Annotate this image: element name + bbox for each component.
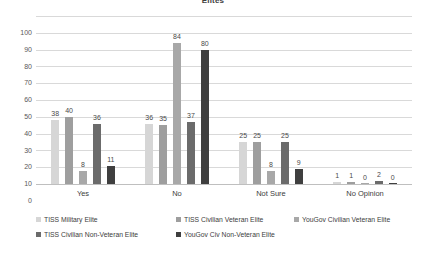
bar-slot: 84 — [173, 16, 182, 184]
bar-slot: 80 — [201, 16, 210, 184]
bar-value-label: 25 — [253, 132, 261, 139]
legend-label: YouGov Civilian Veteran Elite — [302, 216, 390, 224]
bar-group: 384083611 — [36, 16, 130, 184]
bar-chart: Elites 1009080706050403020100 3840836113… — [0, 0, 426, 256]
bar-value-label: 25 — [239, 132, 247, 139]
bar[interactable] — [347, 182, 356, 184]
bar[interactable] — [107, 166, 116, 184]
bar-slot: 0 — [361, 16, 370, 184]
bar-slot: 9 — [295, 16, 304, 184]
x-axis-category-label: No Opinion — [318, 188, 412, 200]
bar[interactable] — [159, 125, 168, 184]
y-axis-tick-label: 20 — [2, 163, 32, 170]
bar[interactable] — [93, 124, 102, 184]
bar[interactable] — [281, 142, 290, 184]
legend-row: TISS Military EliteTISS Civilian Veteran… — [36, 212, 416, 227]
y-axis-tick-label: 0 — [2, 197, 32, 204]
bar[interactable] — [65, 117, 74, 184]
y-axis-tick-label: 70 — [2, 79, 32, 86]
y-axis-tick-labels: 1009080706050403020100 — [0, 16, 32, 184]
bar-groups: 38408361136358437802525825911020 — [36, 16, 412, 184]
bar-value-label: 80 — [201, 40, 209, 47]
bar-value-label: 8 — [81, 161, 85, 168]
bar-slot: 25 — [281, 16, 290, 184]
plot-area: 38408361136358437802525825911020 — [36, 16, 412, 184]
y-axis-tick-label: 80 — [2, 62, 32, 69]
x-axis-line — [36, 184, 412, 185]
bar-slot: 38 — [51, 16, 60, 184]
bar-value-label: 9 — [297, 159, 301, 166]
bar[interactable] — [375, 181, 384, 184]
bar-value-label: 1 — [335, 172, 339, 179]
bar-slot: 40 — [65, 16, 74, 184]
bar-slot: 0 — [389, 16, 398, 184]
bar[interactable] — [173, 43, 182, 184]
bar[interactable] — [201, 50, 210, 184]
bar-value-label: 84 — [173, 33, 181, 40]
legend-label: YouGov Civ Non-Veteran Elite — [184, 231, 275, 239]
legend-label: TISS Civilian Non-Veteran Elite — [44, 231, 138, 239]
y-axis-tick-label: 100 — [2, 29, 32, 36]
bar[interactable] — [295, 169, 304, 184]
bar-value-label: 8 — [269, 161, 273, 168]
bar[interactable] — [79, 171, 88, 184]
bar-value-label: 0 — [391, 174, 395, 181]
legend-item[interactable]: YouGov Civilian Veteran Elite — [294, 216, 390, 224]
bar-value-label: 38 — [51, 110, 59, 117]
chart-title: Elites — [0, 0, 426, 6]
bar-group: 11020 — [318, 16, 412, 184]
bar-value-label: 36 — [145, 114, 153, 121]
legend-swatch-icon — [36, 217, 41, 222]
bar-slot: 2 — [375, 16, 384, 184]
bar[interactable] — [239, 142, 248, 184]
x-axis-category-label: Yes — [36, 188, 130, 200]
legend-label: TISS Military Elite — [44, 216, 98, 224]
bar-value-label: 36 — [93, 114, 101, 121]
bar-value-label: 1 — [349, 172, 353, 179]
bar-slot: 1 — [347, 16, 356, 184]
bar-slot: 8 — [267, 16, 276, 184]
bar[interactable] — [187, 122, 196, 184]
legend-row: TISS Civilian Non-Veteran EliteYouGov Ci… — [36, 227, 416, 242]
bar-slot: 8 — [79, 16, 88, 184]
bar[interactable] — [361, 183, 370, 184]
bar[interactable] — [267, 171, 276, 184]
bar[interactable] — [389, 183, 398, 184]
bar-value-label: 37 — [187, 112, 195, 119]
y-axis-tick-label: 40 — [2, 129, 32, 136]
bar-slot: 25 — [253, 16, 262, 184]
legend-item[interactable]: TISS Civilian Non-Veteran Elite — [36, 231, 138, 239]
bar-slot: 37 — [187, 16, 196, 184]
bar-value-label: 2 — [377, 171, 381, 178]
x-axis-category-labels: YesNoNot SureNo Opinion — [36, 188, 412, 200]
bar-value-label: 11 — [107, 156, 114, 163]
bar[interactable] — [253, 142, 262, 184]
legend-swatch-icon — [294, 217, 299, 222]
chart-legend: TISS Military EliteTISS Civilian Veteran… — [36, 212, 416, 242]
bar-value-label: 40 — [65, 107, 73, 114]
y-axis-tick-label: 90 — [2, 45, 32, 52]
bar[interactable] — [333, 182, 342, 184]
bar-slot: 1 — [333, 16, 342, 184]
bar-slot: 11 — [107, 16, 116, 184]
bar-value-label: 25 — [281, 132, 289, 139]
bar[interactable] — [145, 124, 154, 184]
bar-slot: 35 — [159, 16, 168, 184]
legend-item[interactable]: TISS Civilian Veteran Elite — [176, 216, 263, 224]
y-axis-tick-label: 10 — [2, 180, 32, 187]
bar-slot: 36 — [145, 16, 154, 184]
bar-group: 3635843780 — [130, 16, 224, 184]
bar-group: 25258259 — [224, 16, 318, 184]
bar[interactable] — [51, 120, 60, 184]
y-axis-tick-label: 50 — [2, 113, 32, 120]
legend-item[interactable]: YouGov Civ Non-Veteran Elite — [176, 231, 275, 239]
legend-label: TISS Civilian Veteran Elite — [184, 216, 263, 224]
bar-slot: 36 — [93, 16, 102, 184]
legend-swatch-icon — [176, 217, 181, 222]
legend-swatch-icon — [36, 232, 41, 237]
legend-item[interactable]: TISS Military Elite — [36, 216, 98, 224]
y-axis-tick-label: 30 — [2, 146, 32, 153]
bar-slot: 25 — [239, 16, 248, 184]
bar-value-label: 0 — [363, 174, 367, 181]
x-axis-category-label: No — [130, 188, 224, 200]
